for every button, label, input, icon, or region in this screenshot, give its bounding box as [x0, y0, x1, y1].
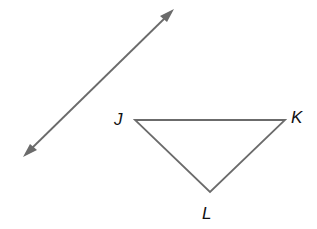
vertex-label-l: L [202, 205, 211, 222]
triangle-jkl [135, 120, 285, 192]
diagram-canvas: J K L [0, 0, 317, 229]
vertex-label-k: K [291, 109, 302, 126]
diagram-svg [0, 0, 317, 229]
vertex-label-j: J [114, 111, 123, 128]
